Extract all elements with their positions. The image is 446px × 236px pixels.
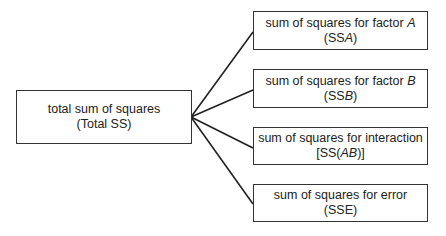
- sse-box: sum of squares for error (SSE): [253, 184, 428, 222]
- ssa-box: sum of squares for factor A (SSA): [253, 11, 428, 50]
- ssa-abbrev: (SSA): [324, 31, 357, 46]
- ssb-abbrev: (SSB): [324, 89, 357, 104]
- ssab-abbrev: [SS(AB)]: [316, 146, 365, 161]
- ssa-label: sum of squares for factor A: [265, 16, 415, 31]
- ssb-label: sum of squares for factor B: [265, 74, 415, 89]
- connector-ssab: [191, 117, 253, 148]
- ssab-box: sum of squares for interaction [SS(AB)]: [253, 127, 428, 165]
- ssab-label: sum of squares for interaction: [258, 131, 423, 146]
- total-ss-abbrev: (Total SS): [77, 117, 132, 132]
- sse-abbrev: (SSE): [324, 203, 357, 218]
- total-ss-label: total sum of squares: [48, 102, 161, 117]
- sse-label: sum of squares for error: [274, 188, 407, 203]
- total-ss-box: total sum of squares (Total SS): [16, 90, 192, 144]
- ssb-box: sum of squares for factor B (SSB): [253, 69, 428, 108]
- connector-sse: [191, 117, 253, 204]
